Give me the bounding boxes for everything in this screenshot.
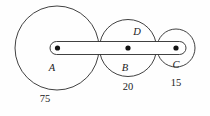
caption-c-15: 15 — [171, 77, 182, 88]
label-b: B — [122, 62, 129, 73]
geometry-figure: A B C D 75 20 15 — [0, 0, 210, 116]
center-dot-a — [55, 45, 60, 50]
label-a: A — [48, 62, 56, 73]
center-dot-c — [173, 45, 178, 50]
label-c: C — [172, 59, 180, 70]
caption-a-75: 75 — [40, 93, 51, 104]
center-dot-b — [125, 45, 130, 50]
label-d: D — [132, 26, 141, 37]
diameter-capsule — [50, 42, 186, 55]
caption-b-20: 20 — [123, 81, 134, 92]
figure-canvas: A B C D 75 20 15 — [0, 0, 210, 116]
